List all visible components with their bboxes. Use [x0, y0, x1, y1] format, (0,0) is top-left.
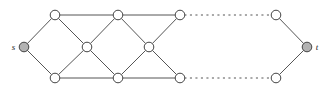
node-bottom-4	[271, 73, 281, 83]
edge-top2-middle2	[121, 18, 145, 43]
edge-bottom1-middle1	[58, 50, 83, 74]
graph-figure: st	[0, 0, 333, 92]
edge-middle2-top3	[152, 18, 176, 43]
edge-s-bottom1	[27, 50, 51, 74]
edge-s-top1	[27, 18, 51, 43]
node-s	[19, 42, 29, 52]
node-top-4	[271, 10, 281, 20]
edge-middle1-top2	[90, 18, 114, 43]
node-bottom-1	[50, 73, 60, 83]
label-s: s	[12, 42, 16, 52]
edge-middle1-bottom2	[90, 50, 114, 74]
node-top-2	[113, 10, 123, 20]
node-top-1	[50, 10, 60, 20]
graph-canvas: st	[0, 0, 333, 92]
node-bottom-3	[175, 73, 185, 83]
edge-bottom4-t	[279, 50, 303, 74]
node-middle-1	[82, 42, 92, 52]
edge-bottom2-middle2	[121, 50, 145, 74]
node-t	[302, 42, 312, 52]
nodes-layer	[19, 10, 312, 83]
edge-top1-middle1	[58, 18, 83, 43]
edge-middle2-bottom3	[152, 50, 176, 74]
label-t: t	[316, 42, 319, 52]
edge-top4-t	[279, 18, 303, 43]
node-bottom-2	[113, 73, 123, 83]
node-middle-2	[144, 42, 154, 52]
labels-layer: st	[12, 42, 319, 52]
node-top-3	[175, 10, 185, 20]
edges-layer	[27, 15, 303, 78]
